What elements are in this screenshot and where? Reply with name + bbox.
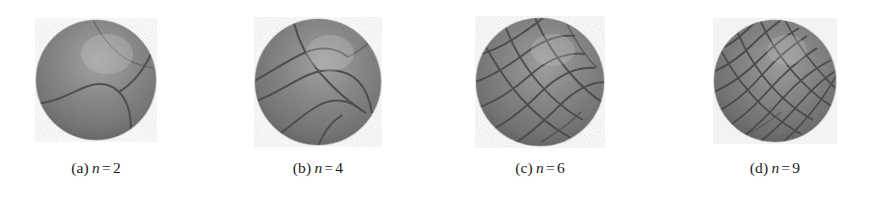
sphere-render-b xyxy=(254,17,382,147)
caption-c: (c)n=6 xyxy=(440,157,640,179)
sphere-render-a xyxy=(35,18,157,142)
caption-c-variable: n xyxy=(533,159,544,176)
caption-a-value: 2 xyxy=(113,159,121,176)
caption-c-value: 6 xyxy=(557,159,565,176)
caption-b: (b)n=4 xyxy=(218,157,418,179)
caption-b-value: 4 xyxy=(335,159,343,176)
figure-panel-a: (a)n=2 xyxy=(0,0,196,200)
sphere-image-d xyxy=(713,18,837,144)
sphere-image-c xyxy=(475,16,605,148)
figure-panel-row: (a)n=2 xyxy=(0,0,887,200)
caption-d-equals: = xyxy=(779,159,792,176)
caption-d-label: (d) xyxy=(750,159,769,176)
caption-a-variable: n xyxy=(89,159,100,176)
figure-panel-b: (b)n=4 xyxy=(218,0,418,200)
caption-a: (a)n=2 xyxy=(0,157,196,179)
caption-a-label: (a) xyxy=(71,159,89,176)
caption-d-variable: n xyxy=(768,159,779,176)
sphere-image-a xyxy=(35,18,157,142)
figure-panel-c: (c)n=6 xyxy=(440,0,640,200)
sphere-image-b xyxy=(254,17,382,147)
figure-panel-d: (d)n=9 xyxy=(675,0,875,200)
caption-b-label: (b) xyxy=(293,159,312,176)
sphere-render-d xyxy=(713,18,837,144)
caption-b-equals: = xyxy=(322,159,335,176)
caption-c-equals: = xyxy=(544,159,557,176)
caption-a-equals: = xyxy=(100,159,113,176)
caption-b-variable: n xyxy=(311,159,322,176)
caption-c-label: (c) xyxy=(515,159,533,176)
caption-d-value: 9 xyxy=(792,159,800,176)
caption-d: (d)n=9 xyxy=(675,157,875,179)
sphere-render-c xyxy=(475,16,605,148)
